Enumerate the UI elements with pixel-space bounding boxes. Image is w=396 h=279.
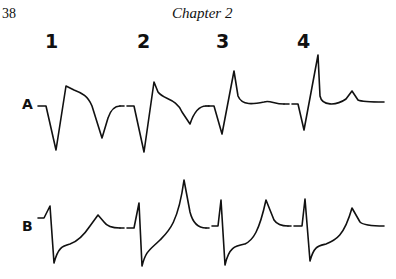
- ecg-figure: [0, 0, 396, 279]
- trace-b2: [127, 180, 206, 266]
- trace-b3: [212, 200, 288, 265]
- trace-a3: [208, 71, 284, 134]
- trace-a4: [292, 55, 384, 130]
- trace-a1: [38, 86, 120, 150]
- trace-a2: [127, 82, 206, 152]
- trace-b4: [294, 199, 384, 261]
- trace-b1: [38, 206, 120, 263]
